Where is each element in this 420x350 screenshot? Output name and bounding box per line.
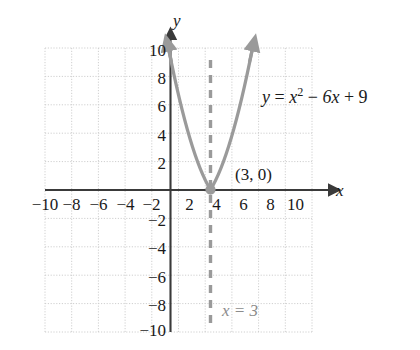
equation-minus: − xyxy=(303,87,322,107)
equation-label: y = x2 − 6x + 9 xyxy=(262,88,368,106)
x-tick-label: 10 xyxy=(283,196,308,213)
y-tick-label: 4 xyxy=(128,127,166,144)
equation-plus: + xyxy=(339,87,358,107)
y-tick-label: 2 xyxy=(128,155,166,172)
x-tick-label: 8 xyxy=(261,196,280,213)
y-tick-label: 8 xyxy=(128,70,166,87)
graph-figure: y x y = x2 − 6x + 9 (3, 0) x = 3 −10 −8 … xyxy=(0,0,420,350)
equation-equals: = xyxy=(270,87,289,107)
y-axis-label: y xyxy=(173,12,181,29)
coordinate-plane xyxy=(0,0,420,350)
vertex-label: (3, 0) xyxy=(235,166,272,183)
y-tick-label: 10 xyxy=(128,42,166,59)
equation-linear-term: 6x xyxy=(322,87,339,107)
axes xyxy=(45,38,330,332)
y-tick-label: −4 xyxy=(122,240,166,257)
x-axis-label: x xyxy=(336,182,344,199)
equation-x-squared-base: x xyxy=(289,87,297,107)
y-tick-label: −2 xyxy=(122,212,166,229)
y-tick-label: −8 xyxy=(122,297,166,314)
x-tick-label: 6 xyxy=(234,196,253,213)
equation-y: y xyxy=(262,87,270,107)
y-tick-label: −10 xyxy=(116,322,166,339)
axis-of-symmetry-label: x = 3 xyxy=(222,302,258,319)
x-tick-label: 2 xyxy=(180,196,199,213)
y-tick-label: −6 xyxy=(122,269,166,286)
vertex-marker xyxy=(205,185,215,195)
x-tick-label: 4 xyxy=(207,196,226,213)
equation-constant: 9 xyxy=(359,87,368,107)
y-tick-label: 6 xyxy=(128,98,166,115)
